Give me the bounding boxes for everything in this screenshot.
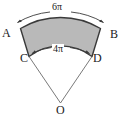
outer-arc-length-label: 6π: [51, 2, 63, 12]
vertex-label-d: D: [93, 52, 102, 64]
radius-line-CO: [29, 57, 61, 104]
vertex-label-b: B: [110, 28, 118, 40]
radius-line-DO: [61, 57, 93, 104]
vertex-label-c: C: [20, 52, 28, 64]
geometry-figure: A B C D O 6π 4π: [0, 0, 121, 122]
vertex-label-a: A: [2, 27, 11, 39]
inner-arc-length-label: 4π: [52, 44, 64, 54]
vertex-label-o: O: [56, 104, 65, 116]
